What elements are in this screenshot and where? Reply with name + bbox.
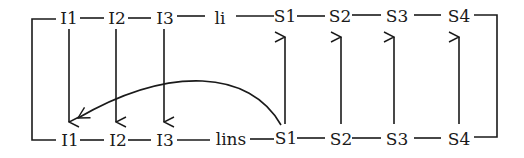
node-bottom-S1: S1 [275,128,297,148]
curved-arrow-S1-to-I1 [78,81,281,125]
node-bottom-I1: I1 [61,130,79,150]
node-top-I1: I1 [60,8,78,28]
node-top-S3: S3 [386,6,408,26]
node-top-li: li [215,8,226,28]
node-bottom-I3: I3 [156,130,174,150]
node-bottom-lins: lins [216,129,247,149]
node-bottom-I2: I2 [109,130,127,150]
node-top-I2: I2 [108,8,126,28]
node-top-I3: I3 [156,8,174,28]
top-row-labels: I1 I2 I3 li S1 S2 S3 S4 [60,6,470,28]
node-top-S1: S1 [274,6,296,26]
node-top-S2: S2 [329,6,351,26]
node-bottom-S2: S2 [330,129,352,149]
node-bottom-S4: S4 [448,129,470,149]
left-bracket-line [32,19,56,140]
right-bracket-line [474,15,497,137]
node-top-S4: S4 [448,6,470,26]
node-bottom-S3: S3 [386,129,408,149]
diagram-canvas: I1 I2 I3 li S1 S2 S3 S4 I1 I2 I3 lins S1… [0,0,524,158]
